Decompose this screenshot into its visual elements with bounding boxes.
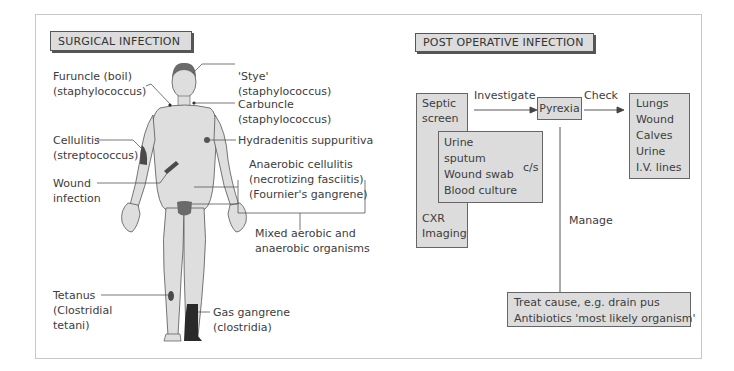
label-hydradenitis: Hydradenitis suppuritiva [238,133,373,148]
label-carbuncle: Carbuncle (staphylococcus) [238,97,331,127]
post-operative-infection-title: POST OPERATIVE INFECTION [423,36,584,49]
investigate-label: Investigate [474,88,535,103]
label-gas-gangrene: Gas gangrene (clostridia) [213,305,290,335]
culture-sensitivity-label: c/s [523,160,539,175]
label-furuncle: Furuncle (boil) (staphylococcus) [53,69,146,99]
post-operative-infection-header: POST OPERATIVE INFECTION [415,33,594,52]
septic-imaging-label: CXR Imaging [422,211,467,241]
manage-label: Manage [569,213,613,228]
pyrexia-label: Pyrexia [539,101,579,116]
label-mixed-organisms: Mixed aerobic and anaerobic organisms [255,226,370,256]
check-label: Check [584,88,618,103]
label-tetanus: Tetanus (Clostridial tetani) [53,288,112,333]
culture-tests-list: Urine sputum Wound swab Blood culture [444,135,517,199]
manage-items-box: Treat cause, e.g. drain pus Antibiotics … [507,292,691,327]
culture-tests-box: Urine sputum Wound swab Blood culture c/… [438,131,543,203]
label-cellulitis: Cellulitis (streptococcus) [53,133,138,163]
label-wound-infection: Wound infection [53,176,101,206]
manage-items-list: Treat cause, e.g. drain pus Antibiotics … [514,295,696,327]
check-items-box: Lungs Wound Calves Urine I.V. lines [629,93,690,179]
human-body-figure [122,63,247,341]
check-items-list: Lungs Wound Calves Urine I.V. lines [636,96,681,176]
septic-screen-label: Septic screen [422,96,459,126]
pyrexia-box: Pyrexia [537,97,582,120]
label-anaerobic-cellulitis: Anaerobic cellulitis (necrotizing fascii… [249,157,368,202]
label-stye: 'Stye' (staphylococcus) [238,69,331,99]
